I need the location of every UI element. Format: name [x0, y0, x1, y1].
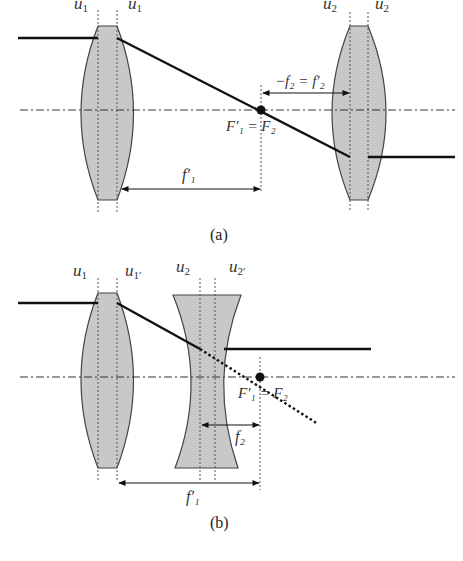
label-u2-prime: u2 [375, 0, 389, 14]
label-focal-point: F′₁ = F₂ [225, 118, 276, 134]
label-u1-prime: u1 [128, 0, 142, 14]
label-f1-prime: f′₁ [186, 488, 200, 506]
label-u1-prime: u1′ [125, 261, 141, 281]
label-u2: u2 [323, 0, 337, 14]
converging-lens-1 [81, 26, 134, 200]
label-f1-prime: f′₁ [182, 166, 196, 184]
refracted-ray [117, 38, 350, 157]
label-f2: −f₂ = f′₂ [275, 73, 325, 89]
optics-diagram: u1 u1 u2 u2 F′₁ = F₂ f′₁ −f₂ = f′₂ (a) [0, 0, 463, 561]
caption-b: (b) [210, 514, 229, 532]
label-u1: u1 [74, 0, 88, 14]
caption-a: (a) [210, 226, 228, 244]
panel-a: u1 u1 u2 u2 F′₁ = F₂ f′₁ −f₂ = f′₂ (a) [18, 0, 455, 244]
label-f2: f₂ [235, 428, 245, 446]
focal-point [256, 373, 265, 382]
panel-b: u1 u1′ u2 u2′ F′₁ = F₂ f₂ f′₁ (b) [18, 257, 455, 532]
converging-lens-2 [332, 26, 386, 200]
label-u1: u1 [73, 261, 87, 281]
diverging-lens-2 [173, 295, 241, 468]
label-focal-point: F′₁ = F₂ [237, 385, 288, 401]
label-u2: u2 [176, 257, 190, 277]
focal-point [257, 106, 266, 115]
label-u2-prime: u2′ [229, 257, 245, 277]
converging-lens-1 [81, 293, 134, 468]
